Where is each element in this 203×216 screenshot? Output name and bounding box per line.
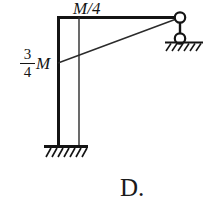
beam-moment-diagonal <box>58 18 179 63</box>
moment-label-top: M/4 <box>73 0 100 17</box>
moment-symbol-m: M <box>36 55 50 72</box>
fixed-support-hatching <box>46 148 87 157</box>
diagram-container: M/4 3 4 M D. <box>0 0 203 216</box>
fraction-numerator: 3 <box>22 47 34 63</box>
upper-hinge-circle <box>175 12 185 22</box>
fixed-support <box>44 147 88 158</box>
fraction-denominator: 4 <box>22 64 34 80</box>
moment-label-left: 3 4 M <box>20 47 50 80</box>
pin-support-hatching <box>166 44 201 52</box>
fraction-three-quarters: 3 4 <box>20 47 35 80</box>
moment-diagram-outline <box>58 17 179 145</box>
frame-outline <box>57 16 180 146</box>
option-letter-label: D. <box>120 175 144 200</box>
frame-moment-diagram-svg <box>0 0 203 216</box>
